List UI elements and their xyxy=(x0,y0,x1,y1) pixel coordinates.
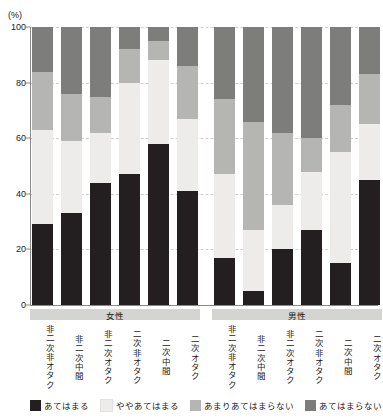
bar-10-segment-4 xyxy=(301,27,322,138)
bar-3-segment-4 xyxy=(90,27,111,97)
legend-item-4[interactable]: あてはまらない xyxy=(305,399,382,411)
group-band-male: 男性 xyxy=(212,309,382,320)
bar-2-segment-3 xyxy=(61,94,82,141)
category-label-10: 二次非オタク xyxy=(301,322,322,394)
legend-swatch-1 xyxy=(30,400,41,411)
bar-6-segment-3 xyxy=(177,66,198,119)
bar-8-segment-4 xyxy=(243,27,264,122)
bar-8-segment-3 xyxy=(243,122,264,230)
y-tick-label-20: 20 xyxy=(0,244,26,254)
bar-10-segment-3 xyxy=(301,138,322,171)
bar-9-segment-3 xyxy=(272,133,293,205)
legend-label-3: あまりあてはまらない xyxy=(204,399,294,411)
y-tick-label-60: 60 xyxy=(0,133,26,143)
bar-2[interactable] xyxy=(61,27,82,305)
bar-3-segment-2 xyxy=(90,133,111,183)
category-label-11: 二次中間 xyxy=(330,322,351,394)
bar-4-segment-2 xyxy=(119,83,140,175)
bar-2-segment-1 xyxy=(61,213,82,305)
legend-item-3[interactable]: あまりあてはまらない xyxy=(190,399,294,411)
bar-7-segment-4 xyxy=(214,27,235,99)
y-tick-label-80: 80 xyxy=(0,78,26,88)
bar-8[interactable] xyxy=(243,27,264,305)
y-tick-label-100: 100 xyxy=(0,22,26,32)
bar-1-segment-2 xyxy=(32,130,53,225)
group-band-female: 女性 xyxy=(30,309,200,320)
bar-11[interactable] xyxy=(330,27,351,305)
bar-series-container xyxy=(30,27,378,305)
bar-4-segment-1 xyxy=(119,174,140,305)
bar-5-segment-1 xyxy=(148,144,169,305)
category-label-2: 非二次中間 xyxy=(61,322,82,394)
y-axis-ticks: 020406080100 xyxy=(0,27,30,305)
bar-11-segment-1 xyxy=(330,263,351,305)
legend-swatch-4 xyxy=(305,400,316,411)
category-label-6: 二次オタク xyxy=(177,322,198,394)
bar-6[interactable] xyxy=(177,27,198,305)
x-axis-line xyxy=(30,305,378,306)
bar-2-segment-4 xyxy=(61,27,82,94)
legend-swatch-2 xyxy=(100,399,113,412)
legend-item-1[interactable]: あてはまる xyxy=(30,399,89,411)
category-label-3: 非二次オタク xyxy=(90,322,111,394)
bar-10-segment-2 xyxy=(301,172,322,230)
bar-11-segment-3 xyxy=(330,105,351,152)
stacked-bar-chart: (%) 020406080100 女性男性 非二次非オタク非二次中間非二次オタク… xyxy=(0,0,383,420)
y-axis-unit-label: (%) xyxy=(8,10,22,20)
bar-3[interactable] xyxy=(90,27,111,305)
bar-7-segment-3 xyxy=(214,99,235,174)
bar-12-segment-4 xyxy=(359,27,380,74)
bar-9-segment-1 xyxy=(272,249,293,305)
bar-11-segment-2 xyxy=(330,152,351,263)
bar-10[interactable] xyxy=(301,27,322,305)
y-tick-label-40: 40 xyxy=(0,189,26,199)
bar-8-segment-1 xyxy=(243,291,264,305)
bar-7[interactable] xyxy=(214,27,235,305)
bar-12-segment-3 xyxy=(359,74,380,124)
bar-5[interactable] xyxy=(148,27,169,305)
bar-1-segment-4 xyxy=(32,27,53,71)
bar-6-segment-1 xyxy=(177,191,198,305)
bar-12-segment-2 xyxy=(359,124,380,180)
legend-swatch-3 xyxy=(190,400,201,411)
bar-11-segment-4 xyxy=(330,27,351,105)
bar-12-segment-1 xyxy=(359,180,380,305)
category-label-5: 二次中間 xyxy=(148,322,169,394)
bar-5-segment-3 xyxy=(148,41,169,60)
bar-9[interactable] xyxy=(272,27,293,305)
bar-7-segment-2 xyxy=(214,174,235,257)
chart-legend: あてはまるややあてはまるあまりあてはまらないあてはまらない xyxy=(30,398,378,412)
bar-12[interactable] xyxy=(359,27,380,305)
y-tick-label-0: 0 xyxy=(0,300,26,310)
legend-label-1: あてはまる xyxy=(44,399,89,411)
bar-6-segment-2 xyxy=(177,119,198,191)
bar-8-segment-2 xyxy=(243,230,264,291)
bar-4-segment-3 xyxy=(119,49,140,82)
bar-7-segment-1 xyxy=(214,258,235,305)
bar-3-segment-3 xyxy=(90,97,111,133)
bar-4-segment-4 xyxy=(119,27,140,49)
category-label-12: 二次オタク xyxy=(359,322,380,394)
bar-1-segment-3 xyxy=(32,72,53,130)
bar-4[interactable] xyxy=(119,27,140,305)
bar-5-segment-4 xyxy=(148,27,169,41)
bar-5-segment-2 xyxy=(148,60,169,143)
category-label-9: 非二次オタク xyxy=(272,322,293,394)
bar-1-segment-1 xyxy=(32,224,53,305)
legend-item-2[interactable]: ややあてはまる xyxy=(100,399,179,412)
bar-2-segment-2 xyxy=(61,141,82,213)
category-label-8: 非二次中間 xyxy=(243,322,264,394)
bar-3-segment-1 xyxy=(90,183,111,305)
bar-9-segment-4 xyxy=(272,27,293,133)
legend-label-4: あてはまらない xyxy=(319,399,382,411)
bar-6-segment-4 xyxy=(177,27,198,66)
category-label-4: 二次非オタク xyxy=(119,322,140,394)
category-label-1: 非二次非オタク xyxy=(32,322,53,394)
bar-10-segment-1 xyxy=(301,230,322,305)
bar-9-segment-2 xyxy=(272,205,293,249)
cropped-title xyxy=(0,0,383,7)
category-label-7: 非二次非オタク xyxy=(214,322,235,394)
bar-1[interactable] xyxy=(32,27,53,305)
legend-label-2: ややあてはまる xyxy=(116,399,179,411)
